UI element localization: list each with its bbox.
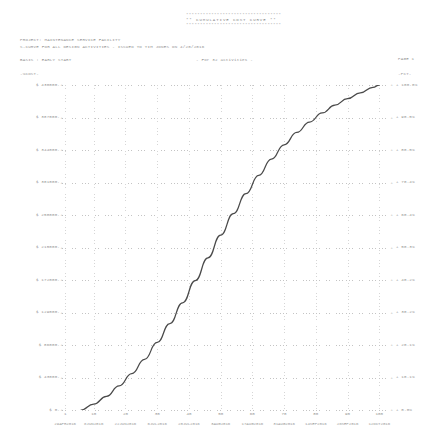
week-tick-label: 100 <box>376 412 384 416</box>
date-tick-label: 14SEP2016 <box>305 422 327 426</box>
cost-axis-labels: $ 430000.$ 387000.$ 344000.$ 301000.$ 25… <box>18 85 60 410</box>
date-tick-label: 29APR2016 <box>54 422 76 426</box>
report-page: ********************************** ** CU… <box>0 0 436 448</box>
week-tick-label: 80 <box>313 412 318 416</box>
percent-axis-tick-label: + 90.5% <box>396 115 415 119</box>
percent-axis-caption: -PCT- <box>398 72 412 76</box>
date-tick-label: 17AUG2016 <box>242 422 264 426</box>
percent-axis-tick-label: + 60.4% <box>396 213 415 217</box>
cost-axis-tick-label: $ 129000. <box>36 310 60 314</box>
percent-axis-labels: + 100.0%+ 90.5%+ 80.5%+ 70.4%+ 60.4%+ 50… <box>396 85 436 410</box>
week-tick-label: 90 <box>345 412 350 416</box>
cost-axis-tick-label: $ 430000. <box>36 83 60 87</box>
week-tick-label: 1 <box>64 412 67 416</box>
percent-axis-tick-label: + 30.2% <box>396 310 415 314</box>
cost-axis-tick-label: $ 215000. <box>36 245 60 249</box>
report-title-banner: ********************************** ** CU… <box>186 13 281 29</box>
percent-axis-tick-label: + 0.0% <box>396 408 412 412</box>
cost-axis-tick-label: $ 344000. <box>36 148 60 152</box>
cost-axis-caption: -%COST- <box>20 72 39 76</box>
cost-axis-tick-label: $ 86000. <box>39 343 60 347</box>
date-axis-labels: 29APR20168JUN201622JUN20166JUL201620JUL2… <box>34 422 406 432</box>
percent-axis-tick-label: + 100.0% <box>396 83 417 87</box>
cost-axis-tick-label: $ 43000. <box>39 375 60 379</box>
date-tick-label: 8JUN2016 <box>84 422 103 426</box>
week-tick-label: 60 <box>250 412 255 416</box>
week-tick-label: 70 <box>282 412 287 416</box>
banner-stars-bottom: ********************************** <box>186 23 281 28</box>
cost-axis-tick-label: $ 0. <box>49 408 60 412</box>
date-tick-label: 20JUL2016 <box>178 422 200 426</box>
percent-axis-tick-label: + 70.4% <box>396 180 415 184</box>
date-tick-label: 31AUG2016 <box>273 422 295 426</box>
grid-hline <box>62 410 392 411</box>
cost-axis-tick-label: $ 387000. <box>36 115 60 119</box>
percent-axis-tick-label: + 40.2% <box>396 278 415 282</box>
cumulative-cost-curve <box>62 85 392 410</box>
date-tick-label: 28SEP2016 <box>337 422 359 426</box>
percent-axis-tick-label: + 20.1% <box>396 343 415 347</box>
page-number: PAGE 1 <box>398 57 414 61</box>
chart-plot-area: ++++++++++++++++++++++ <box>62 85 392 410</box>
percent-axis-tick-label: + 50.3% <box>396 245 415 249</box>
percent-axis-tick-label: + 80.5% <box>396 148 415 152</box>
project-line: PROJECT: MAINTENANCE SERVICE FACILITY <box>20 38 120 42</box>
week-tick-label: 30 <box>155 412 160 416</box>
week-tick-label: 20 <box>123 412 128 416</box>
date-tick-label: 22JUN2016 <box>115 422 137 426</box>
week-tick-label: 10 <box>91 412 96 416</box>
date-tick-label: 3AUG2016 <box>211 422 230 426</box>
basis-line: BASIS : EARLY START <box>20 58 72 62</box>
week-tick-label: 40 <box>186 412 191 416</box>
curve-description-line: S-CURVE FOR ALL DESIGN ACTIVITIES - ISSU… <box>20 45 204 49</box>
week-tick-label: 50 <box>218 412 223 416</box>
date-tick-label: 12OCT2016 <box>368 422 390 426</box>
cost-axis-tick-label: $ 172000. <box>36 278 60 282</box>
activity-count-line: - For 32 activities - <box>196 58 253 62</box>
date-tick-label: 6JUL2016 <box>148 422 167 426</box>
cost-axis-tick-label: $ 301000. <box>36 180 60 184</box>
cost-axis-tick-label: $ 258000. <box>36 213 60 217</box>
percent-axis-tick-label: + 10.1% <box>396 375 415 379</box>
